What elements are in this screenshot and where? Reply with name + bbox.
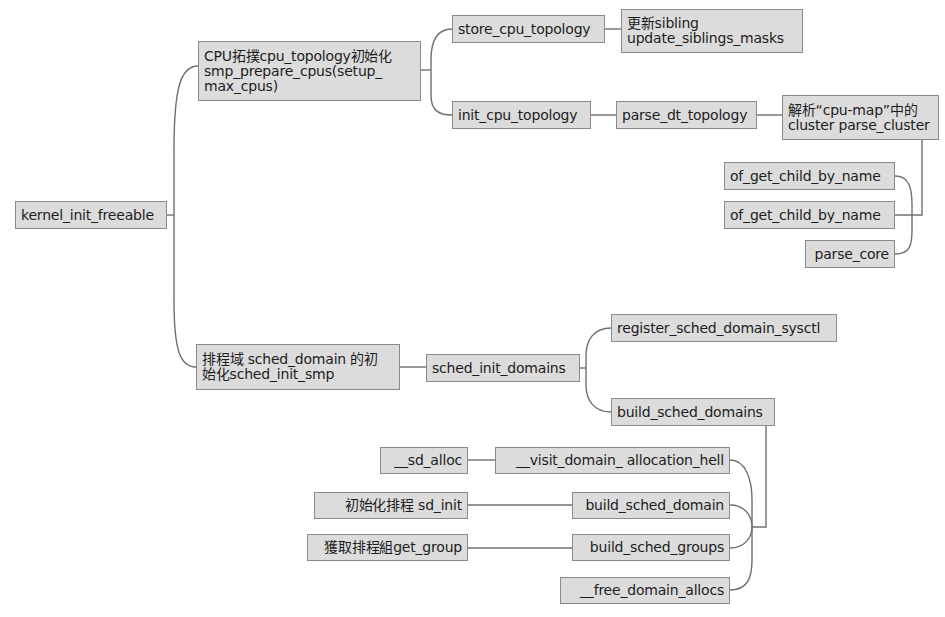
node-label: of_get_child_by_name (730, 169, 881, 184)
node-label: build_sched_groups (590, 540, 724, 555)
node-free-domain-allocs[interactable]: __free_domain_allocs (560, 577, 730, 604)
node-label: 解析“cpu-map”中的 cluster parse_cluster (788, 103, 930, 133)
node-label: register_sched_domain_sysctl (617, 321, 820, 336)
node-label: 更新sibling update_siblings_masks (627, 16, 784, 46)
node-store-cpu-topology[interactable]: store_cpu_topology (452, 15, 605, 43)
node-build-sched-domains[interactable]: build_sched_domains (611, 398, 775, 426)
node-label: 獲取排程組get_group (324, 540, 462, 555)
node-label: 排程域 sched_domain 的初 始化sched_init_smp (202, 352, 378, 382)
connector-lines (0, 0, 945, 617)
node-parse-core[interactable]: parse_core (805, 240, 895, 268)
node-get-group[interactable]: 獲取排程組get_group (307, 534, 468, 561)
node-parse-dt-topology[interactable]: parse_dt_topology (616, 101, 757, 129)
node-update-siblings-masks[interactable]: 更新sibling update_siblings_masks (621, 9, 803, 53)
node-sched-init-domains[interactable]: sched_init_domains (426, 354, 580, 382)
node-label: sched_init_domains (432, 361, 566, 376)
node-sd-init[interactable]: 初始化排程 sd_init (314, 492, 468, 519)
node-register-sched-domain-sysctl[interactable]: register_sched_domain_sysctl (611, 314, 837, 342)
node-label: of_get_child_by_name (730, 208, 881, 223)
node-sched-domain-init[interactable]: 排程域 sched_domain 的初 始化sched_init_smp (196, 344, 400, 390)
node-label: parse_core (815, 247, 889, 262)
node-label: __visit_domain_ allocation_hell (516, 453, 724, 468)
node-init-cpu-topology[interactable]: init_cpu_topology (452, 101, 591, 129)
node-of-get-child-by-name-2[interactable]: of_get_child_by_name (724, 201, 895, 229)
node-label: CPU拓撲cpu_topology初始化 smp_prepare_cpus(se… (204, 49, 392, 94)
node-label: build_sched_domain (585, 498, 724, 513)
mind-map-canvas: kernel_init_freeable CPU拓撲cpu_topology初始… (0, 0, 945, 617)
node-build-sched-domain[interactable]: build_sched_domain (572, 492, 730, 519)
node-label: parse_dt_topology (622, 108, 747, 123)
node-build-sched-groups[interactable]: build_sched_groups (572, 534, 730, 561)
node-label: 初始化排程 sd_init (345, 498, 462, 513)
node-sd-alloc[interactable]: __sd_alloc (380, 447, 468, 474)
node-cpu-topology-init[interactable]: CPU拓撲cpu_topology初始化 smp_prepare_cpus(se… (198, 41, 421, 101)
node-kernel-init-freeable[interactable]: kernel_init_freeable (15, 201, 167, 229)
node-label: kernel_init_freeable (21, 208, 154, 223)
node-parse-cluster[interactable]: 解析“cpu-map”中的 cluster parse_cluster (782, 95, 939, 140)
node-visit-domain-allocation-hell[interactable]: __visit_domain_ allocation_hell (495, 447, 730, 474)
node-label: __sd_alloc (394, 453, 462, 468)
node-of-get-child-by-name-1[interactable]: of_get_child_by_name (724, 162, 895, 190)
node-label: __free_domain_allocs (580, 583, 724, 598)
node-label: init_cpu_topology (458, 108, 577, 123)
node-label: store_cpu_topology (458, 22, 590, 37)
node-label: build_sched_domains (617, 405, 763, 420)
